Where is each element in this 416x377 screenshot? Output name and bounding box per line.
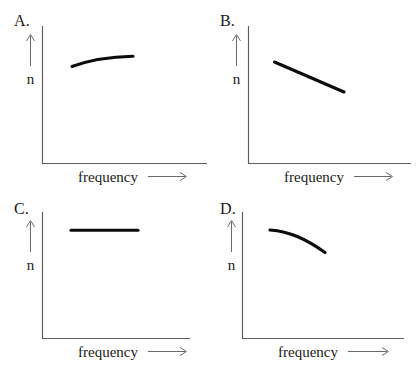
- panel-d-y-axis-label: n: [228, 257, 236, 273]
- panel-b: B. n frequency: [206, 0, 414, 189]
- panel-c: C. n frequency: [0, 188, 208, 377]
- panel-d: D. n frequency: [206, 188, 414, 377]
- four-panel-figure: A. n frequency B. n frequency: [0, 0, 416, 377]
- panel-b-plot: n frequency: [206, 0, 414, 189]
- panel-b-axes: [249, 26, 412, 164]
- panel-d-axes: [243, 212, 405, 339]
- panel-a-curve: [72, 56, 133, 66]
- panel-a-plot: n frequency: [0, 0, 208, 189]
- panel-b-y-axis-label: n: [233, 71, 241, 87]
- panel-a-x-axis-label: frequency: [78, 169, 138, 185]
- panel-d-plot: n frequency: [206, 188, 414, 377]
- panel-c-y-axis-label: n: [27, 257, 35, 273]
- panel-d-curve: [270, 230, 325, 253]
- panel-b-curve: [275, 62, 345, 92]
- panel-a: A. n frequency: [0, 0, 208, 189]
- panel-c-x-axis-label: frequency: [78, 344, 138, 360]
- panel-c-plot: n frequency: [0, 188, 208, 377]
- panel-b-x-axis-label: frequency: [284, 169, 344, 185]
- panel-d-x-axis-label: frequency: [278, 344, 338, 360]
- panel-a-y-axis-label: n: [27, 71, 35, 87]
- panel-a-axes: [43, 26, 208, 164]
